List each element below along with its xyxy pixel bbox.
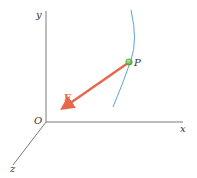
force-vector-arrow	[66, 63, 128, 106]
y-axis-label: y	[35, 9, 42, 20]
point-p-marker	[126, 59, 133, 66]
z-axis-label: z	[9, 163, 16, 174]
z-axis	[13, 122, 46, 165]
point-p-label: P	[133, 57, 141, 68]
coordinate-diagram: y x z O P F	[0, 0, 197, 178]
force-label: F	[64, 92, 71, 103]
x-axis-label: x	[180, 123, 186, 134]
origin-label: O	[34, 115, 42, 126]
trajectory-curve	[113, 10, 135, 107]
